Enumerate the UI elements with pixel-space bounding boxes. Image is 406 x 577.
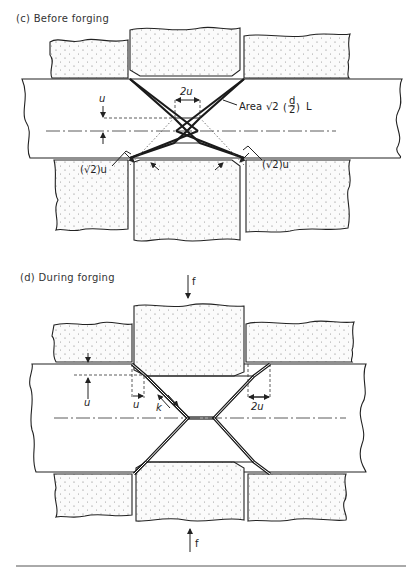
panel-c-top-center-die — [130, 27, 240, 76]
panel-c-before-forging: (c) Before forging u 2u — [16, 13, 402, 241]
panel-c-title: (c) Before forging — [16, 13, 109, 24]
panel-d-u-h-label: u — [133, 399, 139, 410]
area-paren-open: ( — [283, 102, 287, 113]
panel-d-bottom-left-die — [54, 474, 132, 517]
area-sqrt: √2 — [266, 101, 279, 112]
panel-c-bottom-center-die — [134, 160, 240, 241]
panel-c-top-left-die — [50, 39, 128, 78]
area-prefix: Area — [239, 101, 262, 112]
panel-d-top-right-die — [246, 321, 354, 362]
panel-c-top-right-die — [244, 34, 350, 78]
forging-diagram: (c) Before forging u 2u — [0, 0, 406, 577]
area-paren-close: ) — [296, 102, 300, 113]
panel-d-during-forging: (d) During forging f f — [20, 272, 366, 552]
panel-d-bottom-center-die — [136, 462, 244, 521]
area-frac-den: 2 — [289, 104, 295, 115]
panel-d-u-label: u — [84, 397, 90, 408]
panel-d-2u-label: 2u — [251, 401, 264, 412]
panel-c-u-label: u — [99, 93, 105, 104]
panel-d-top-center-die — [134, 304, 244, 376]
panel-c-2u-label: 2u — [180, 86, 193, 97]
panel-d-top-left-die — [52, 322, 132, 362]
panel-c-bottom-right-die — [246, 160, 350, 232]
panel-c-sqrt2u-left-label: (√2)u — [80, 164, 107, 175]
panel-c-sqrt2u-right-label: (√2)u — [262, 159, 289, 170]
panel-d-bottom-right-die — [248, 474, 346, 521]
panel-d-force-top-label: f — [192, 276, 196, 287]
panel-d-force-bottom-label: f — [195, 538, 199, 549]
panel-d-title: (d) During forging — [20, 272, 115, 283]
area-L: L — [306, 101, 312, 112]
